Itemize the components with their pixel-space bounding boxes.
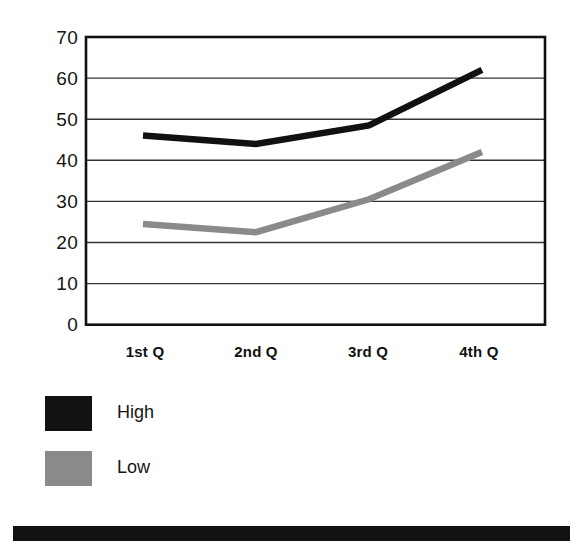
y-tick-60: 60 (30, 69, 78, 88)
y-tick-40: 40 (30, 151, 78, 170)
x-tick-1st-q: 1st Q (100, 344, 190, 359)
y-axis-tick-labels: 70 60 50 40 30 20 10 0 (28, 0, 78, 340)
series-line-high (143, 70, 482, 144)
legend-swatch-low (45, 451, 92, 486)
x-axis-tick-labels: 1st Q 2nd Q 3rd Q 4th Q (0, 338, 580, 372)
legend-swatch-high (45, 396, 92, 431)
y-tick-70: 70 (30, 28, 78, 47)
x-tick-4th-q: 4th Q (434, 344, 524, 359)
y-tick-30: 30 (30, 192, 78, 211)
footer-rule-bar (13, 526, 570, 541)
line-chart-figure: 70 60 50 40 30 20 10 0 1st Q 2nd Q 3rd Q… (0, 0, 580, 390)
legend-item-low: Low (45, 451, 345, 493)
x-tick-2nd-q: 2nd Q (211, 344, 301, 359)
y-tick-10: 10 (30, 274, 78, 293)
legend-item-high: High (45, 396, 345, 438)
plot-area (0, 0, 580, 340)
legend-label-high: High (117, 403, 154, 421)
plot-border (86, 37, 545, 325)
x-tick-3rd-q: 3rd Q (323, 344, 413, 359)
chart-legend: High Low (0, 396, 580, 496)
y-tick-50: 50 (30, 110, 78, 129)
gridlines (86, 78, 545, 284)
legend-label-low: Low (117, 458, 150, 476)
y-tick-0: 0 (30, 315, 78, 334)
series-line-low (143, 152, 482, 232)
y-tick-20: 20 (30, 233, 78, 252)
